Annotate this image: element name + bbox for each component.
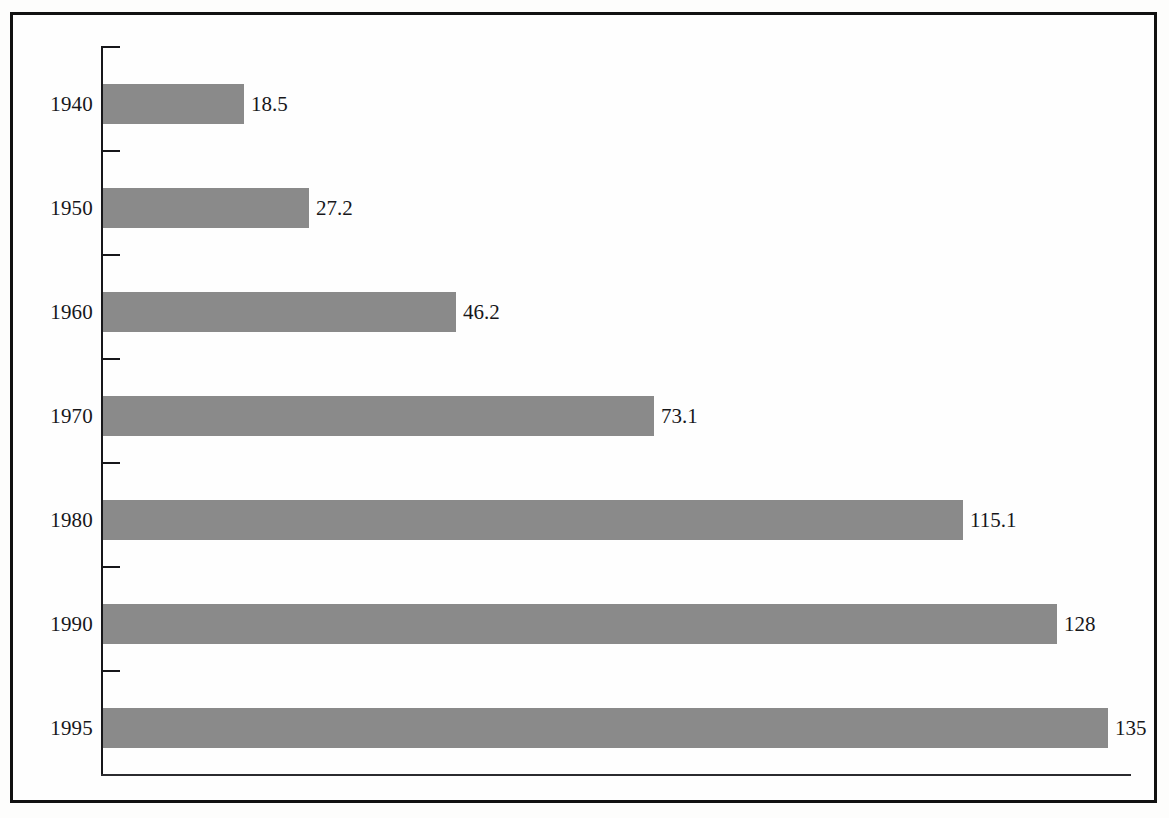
plot-area: 1940 18.5 1950 27.2 1960 46.2 <box>13 15 1154 800</box>
bar-track: 27.2 <box>103 188 1154 228</box>
bar-track: 135 <box>103 708 1154 748</box>
axis-tick-6 <box>103 670 120 672</box>
category-label-1960: 1960 <box>13 302 99 323</box>
category-label-1940: 1940 <box>13 94 99 115</box>
axis-tick-5 <box>103 566 120 568</box>
bar-value-1980: 115.1 <box>963 510 1016 531</box>
category-label-1990: 1990 <box>13 614 99 635</box>
bar-row: 1990 128 <box>13 604 1154 644</box>
bar-track: 46.2 <box>103 292 1154 332</box>
value-axis-baseline <box>101 774 1131 776</box>
bar-1950[interactable] <box>103 188 309 228</box>
category-label-1980: 1980 <box>13 510 99 531</box>
bar-row: 1995 135 <box>13 708 1154 748</box>
chart-frame: 1940 18.5 1950 27.2 1960 46.2 <box>10 12 1157 803</box>
axis-tick-4 <box>103 462 120 464</box>
bar-value-1960: 46.2 <box>456 302 500 323</box>
bar-row: 1970 73.1 <box>13 396 1154 436</box>
bar-row: 1960 46.2 <box>13 292 1154 332</box>
bar-1940[interactable] <box>103 84 244 124</box>
bar-row: 1980 115.1 <box>13 500 1154 540</box>
bar-1980[interactable] <box>103 500 963 540</box>
chart-page: 1940 18.5 1950 27.2 1960 46.2 <box>0 0 1169 818</box>
bar-track: 73.1 <box>103 396 1154 436</box>
category-label-1995: 1995 <box>13 718 99 739</box>
category-label-1970: 1970 <box>13 406 99 427</box>
category-label-1950: 1950 <box>13 198 99 219</box>
bar-value-1995: 135 <box>1108 718 1147 739</box>
bar-track: 115.1 <box>103 500 1154 540</box>
axis-tick-3 <box>103 358 120 360</box>
bar-value-1940: 18.5 <box>244 94 288 115</box>
bar-track: 128 <box>103 604 1154 644</box>
axis-tick-2 <box>103 254 120 256</box>
bar-track: 18.5 <box>103 84 1154 124</box>
bar-1960[interactable] <box>103 292 456 332</box>
bar-1990[interactable] <box>103 604 1057 644</box>
bar-row: 1940 18.5 <box>13 84 1154 124</box>
bar-value-1990: 128 <box>1057 614 1096 635</box>
bar-value-1950: 27.2 <box>309 198 353 219</box>
bar-1995[interactable] <box>103 708 1108 748</box>
bar-row: 1950 27.2 <box>13 188 1154 228</box>
axis-tick-1 <box>103 150 120 152</box>
bar-value-1970: 73.1 <box>654 406 698 427</box>
axis-tick-0 <box>103 46 120 48</box>
bar-1970[interactable] <box>103 396 654 436</box>
